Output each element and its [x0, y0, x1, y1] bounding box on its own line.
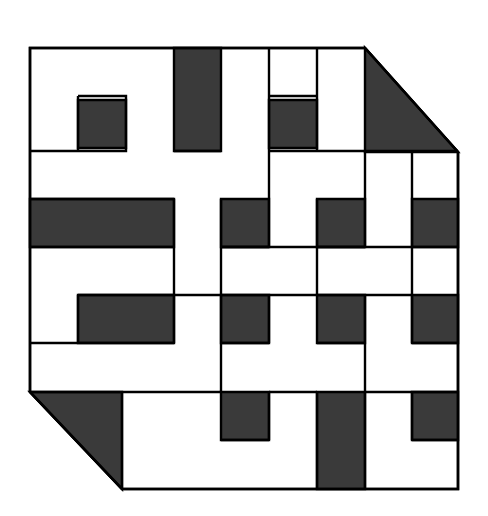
square-mid-center-left-shape	[221, 295, 269, 343]
square-mid-left-shape	[78, 295, 174, 343]
square-top-right-inner-shape	[269, 100, 317, 148]
bar-mid-upper-left-shape	[221, 199, 269, 247]
square-bottom-right-inner-shape	[412, 392, 458, 440]
bar-right-upper-shape	[412, 199, 458, 247]
band-top-vertical-shape	[174, 48, 221, 151]
bar-right-lower-shape	[412, 295, 458, 343]
knot-figure-canvas	[0, 0, 488, 516]
bar-left-upper-shape	[30, 199, 174, 247]
square-mid-center-right-shape	[317, 295, 365, 343]
band-bottom-vertical-shape	[317, 392, 365, 489]
endless-knot-figure	[0, 0, 488, 516]
bar-mid-upper-right-shape	[317, 199, 365, 247]
square-bottom-left-inner-shape	[221, 392, 269, 440]
square-top-left-inner-shape	[78, 100, 126, 148]
